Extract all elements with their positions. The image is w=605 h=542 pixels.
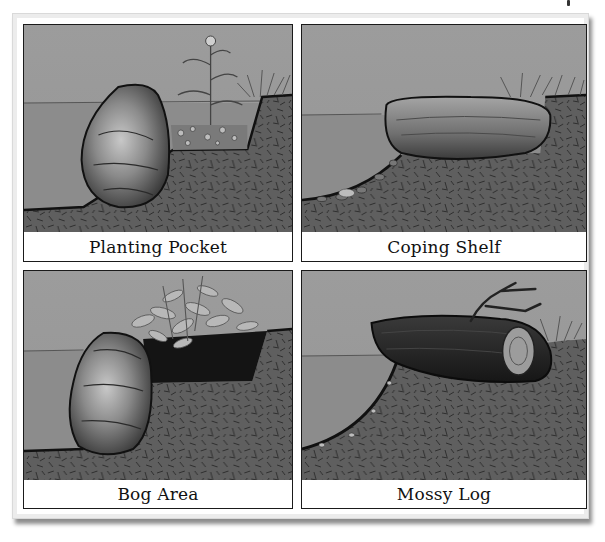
caption-mossy-log: Mossy Log (302, 480, 586, 508)
panel-bog-area: Bog Area (23, 270, 293, 509)
planting-pocket-illustration (24, 25, 292, 234)
bog-area-illustration (24, 271, 292, 482)
corner-mark (567, 0, 570, 6)
caption-planting-pocket: Planting Pocket (24, 232, 292, 261)
caption-coping-shelf: Coping Shelf (302, 232, 586, 261)
panel-mossy-log: Mossy Log (301, 270, 587, 509)
coping-shelf-illustration (302, 25, 586, 234)
panel-planting-pocket: Planting Pocket (23, 24, 293, 262)
panel-coping-shelf: Coping Shelf (301, 24, 587, 262)
caption-bog-area: Bog Area (24, 480, 292, 508)
mossy-log-illustration (302, 271, 586, 482)
